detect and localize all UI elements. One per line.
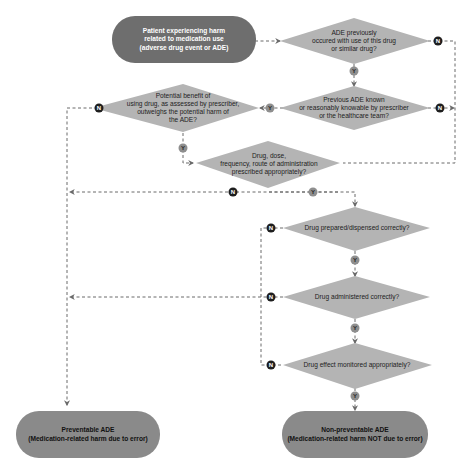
svg-text:Y: Y bbox=[311, 189, 315, 195]
svg-text:N: N bbox=[436, 38, 440, 44]
svg-text:N: N bbox=[269, 362, 273, 368]
preventable-ade-label: Preventable ADE (Medication-related harm… bbox=[16, 411, 160, 458]
decision-d2-label: Previous ADE known or reasonably knowabl… bbox=[290, 90, 418, 126]
decision-d1-label: ADE previously occured with use of this … bbox=[290, 22, 418, 60]
svg-text:N: N bbox=[97, 105, 101, 111]
decision-d3-label: Potential benefit of using drug, as asse… bbox=[113, 88, 253, 128]
svg-text:Y: Y bbox=[353, 325, 357, 331]
svg-text:N: N bbox=[438, 105, 442, 111]
decision-d5-label: Drug prepared/dispensed correctly? bbox=[290, 218, 424, 238]
svg-text:Y: Y bbox=[353, 257, 357, 263]
svg-text:N: N bbox=[231, 189, 235, 195]
svg-text:Y: Y bbox=[353, 393, 357, 399]
svg-text:Y: Y bbox=[268, 105, 272, 111]
start-node-label: Patient experiencing harm related to med… bbox=[112, 16, 256, 63]
decision-d7-label: Drug effect monitored appropriately? bbox=[290, 355, 424, 375]
decision-d6-label: Drug administered correctly? bbox=[290, 287, 424, 307]
nonpreventable-ade-label: Non-preventable ADE (Medication-related … bbox=[282, 411, 428, 458]
svg-text:N: N bbox=[269, 294, 273, 300]
svg-text:Y: Y bbox=[352, 68, 356, 74]
decision-d4-label: Drug, dose, frequency, route of administ… bbox=[204, 145, 334, 183]
svg-text:N: N bbox=[269, 225, 273, 231]
svg-text:Y: Y bbox=[181, 145, 185, 151]
